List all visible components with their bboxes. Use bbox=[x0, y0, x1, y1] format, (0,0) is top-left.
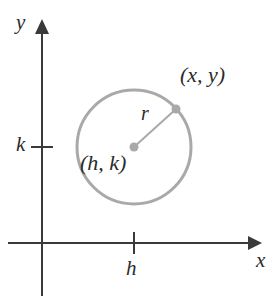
radius-label: r bbox=[141, 103, 149, 123]
circle-point-marker bbox=[172, 105, 181, 114]
x-axis-label: x bbox=[256, 250, 265, 271]
point-label-xy: (x, y) bbox=[180, 64, 225, 86]
center-label-hk: (h, k) bbox=[80, 152, 126, 174]
circle-diagram: y x k h (x, y) (h, k) r bbox=[0, 0, 279, 303]
center-point-marker bbox=[130, 143, 139, 152]
diagram-canvas bbox=[0, 0, 279, 303]
tick-label-k: k bbox=[16, 134, 25, 155]
tick-label-h: h bbox=[126, 258, 137, 279]
y-axis-label: y bbox=[16, 12, 25, 33]
y-axis-arrow-icon bbox=[35, 19, 49, 34]
